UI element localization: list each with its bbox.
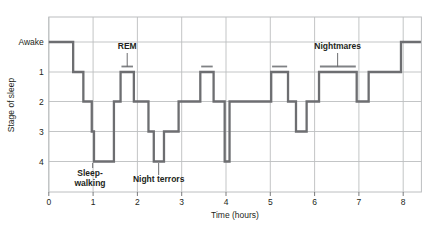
- y-axis-tick-labels: Awake1234: [18, 37, 44, 167]
- x-tick-label: 7: [357, 197, 362, 207]
- x-axis-tick-labels: 012345678: [46, 197, 405, 207]
- x-tick-label: 4: [224, 197, 229, 207]
- chart-canvas: 012345678 Awake1234 REMNightmaresSleep-w…: [0, 0, 432, 237]
- x-tick-label: 0: [46, 197, 51, 207]
- x-tick-label: 5: [268, 197, 273, 207]
- annotation-label: Night terrors: [133, 174, 185, 184]
- x-tick-label: 2: [135, 197, 140, 207]
- x-tick-label: 1: [91, 197, 96, 207]
- y-tick-label: 4: [39, 157, 44, 167]
- annotation-label-line2: walking: [73, 178, 105, 188]
- y-tick-label: 1: [39, 67, 44, 77]
- x-axis-ticks: [49, 192, 403, 196]
- plot-area-background: [49, 17, 422, 192]
- x-tick-label: 8: [401, 197, 406, 207]
- y-tick-label: 3: [39, 127, 44, 137]
- x-tick-label: 6: [312, 197, 317, 207]
- annotation-label: Sleep-: [77, 168, 103, 178]
- y-tick-label: Awake: [18, 37, 44, 47]
- annotation-label: Nightmares: [314, 41, 361, 51]
- sleep-stage-chart: 012345678 Awake1234 REMNightmaresSleep-w…: [0, 0, 432, 237]
- y-axis-title: Stage of sleep: [6, 78, 16, 133]
- annotation-label: REM: [118, 41, 137, 51]
- x-axis-title: Time (hours): [211, 210, 259, 220]
- y-tick-label: 2: [39, 97, 44, 107]
- x-tick-label: 3: [179, 197, 184, 207]
